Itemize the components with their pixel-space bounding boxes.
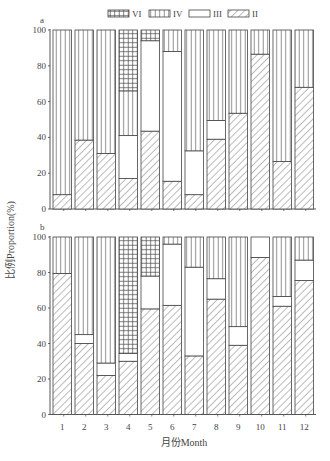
- y-tick-label: 60: [37, 303, 47, 313]
- legend-label: IV: [173, 9, 183, 19]
- y-axis-label: 比例Proportion(%): [4, 201, 17, 279]
- x-tick-label: 7: [192, 422, 197, 432]
- segment-iv: [229, 30, 248, 113]
- segment-iii: [207, 279, 226, 299]
- bar-month-6: [163, 30, 182, 209]
- segment-ii: [251, 54, 270, 209]
- segment-ii: [163, 181, 182, 209]
- segment-ii: [119, 179, 138, 209]
- bar-month-9: [229, 30, 248, 209]
- segment-iii: [119, 353, 138, 361]
- bar-month-9: [229, 237, 248, 415]
- legend-swatch: [228, 10, 249, 17]
- segment-iii: [141, 276, 160, 309]
- segment-iii: [273, 296, 292, 306]
- segment-ii: [141, 309, 160, 415]
- segment-iv: [75, 30, 94, 140]
- segment-iv: [295, 237, 314, 260]
- bar-month-4: [119, 30, 138, 209]
- chart-legend: VIIVIIIII: [108, 9, 258, 19]
- segment-iii: [163, 244, 182, 305]
- segment-iii: [97, 363, 116, 375]
- y-tick-label: 60: [37, 97, 47, 107]
- bar-month-7: [185, 30, 204, 209]
- segment-iv: [163, 237, 182, 244]
- bar-month-8: [207, 30, 226, 209]
- segment-vi: [141, 30, 160, 41]
- segment-iii: [141, 41, 160, 131]
- segment-iv: [97, 30, 116, 154]
- segment-iv: [75, 237, 94, 335]
- segment-iii: [207, 120, 226, 139]
- segment-ii: [185, 356, 204, 415]
- legend-label: II: [252, 9, 258, 19]
- segment-vi: [141, 237, 160, 276]
- bar-month-12: [295, 237, 314, 415]
- bar-month-8: [207, 237, 226, 415]
- segment-ii: [97, 375, 116, 414]
- bar-month-5: [141, 30, 160, 209]
- x-tick-label: 3: [104, 422, 109, 432]
- y-tick-label: 0: [42, 204, 47, 214]
- segment-iii: [295, 260, 314, 280]
- bar-month-3: [97, 30, 116, 209]
- bar-month-3: [97, 237, 116, 415]
- segment-ii: [273, 162, 292, 209]
- x-tick-label: 8: [214, 422, 219, 432]
- bar-month-10: [251, 237, 270, 415]
- bar-month-5: [141, 237, 160, 415]
- x-tick-label: 12: [300, 422, 309, 432]
- legend-swatch: [149, 10, 170, 17]
- segment-ii: [273, 306, 292, 414]
- x-tick-label: 10: [256, 422, 266, 432]
- segment-iii: [75, 335, 94, 344]
- segment-iii: [251, 237, 270, 257]
- segment-ii: [295, 87, 314, 209]
- segment-ii: [185, 195, 204, 209]
- segment-ii: [229, 345, 248, 414]
- segment-ii: [75, 140, 94, 209]
- segment-iv: [53, 237, 72, 273]
- x-tick-label: 1: [60, 422, 65, 432]
- segment-vi: [119, 237, 138, 353]
- segment-iv: [273, 30, 292, 162]
- bar-month-6: [163, 237, 182, 415]
- segment-iv: [185, 237, 204, 267]
- panel-b: b020406080100123456789101112: [33, 222, 317, 432]
- y-tick-label: 40: [37, 339, 47, 349]
- legend-swatch: [108, 10, 129, 17]
- segment-iv: [207, 237, 226, 279]
- segment-iv: [273, 237, 292, 296]
- segment-ii: [295, 280, 314, 414]
- y-tick-label: 100: [33, 25, 47, 35]
- segment-iv: [119, 91, 138, 136]
- y-tick-label: 80: [37, 61, 47, 71]
- segment-ii: [97, 154, 116, 209]
- y-tick-label: 80: [37, 268, 47, 278]
- segment-ii: [207, 139, 226, 209]
- segment-ii: [53, 195, 72, 209]
- segment-iii: [163, 51, 182, 181]
- bar-month-10: [251, 30, 270, 209]
- segment-iii: [119, 136, 138, 179]
- segment-iv: [53, 30, 72, 195]
- bar-month-11: [273, 237, 292, 415]
- segment-iii: [229, 327, 248, 346]
- bar-month-7: [185, 237, 204, 415]
- segment-iv: [207, 30, 226, 120]
- panel-a: a020406080100: [33, 15, 317, 214]
- segment-iv: [251, 30, 270, 54]
- segment-ii: [141, 131, 160, 209]
- segment-ii: [163, 305, 182, 414]
- x-tick-label: 9: [236, 422, 241, 432]
- bar-month-2: [75, 237, 94, 415]
- segment-ii: [75, 344, 94, 415]
- segment-ii: [207, 299, 226, 414]
- segment-iii: [185, 267, 204, 356]
- y-tick-label: 0: [42, 410, 47, 420]
- segment-iii: [185, 151, 204, 195]
- bar-month-2: [75, 30, 94, 209]
- x-tick-label: 11: [278, 422, 287, 432]
- legend-item-vi: VI: [108, 9, 142, 19]
- x-tick-label: 6: [170, 422, 175, 432]
